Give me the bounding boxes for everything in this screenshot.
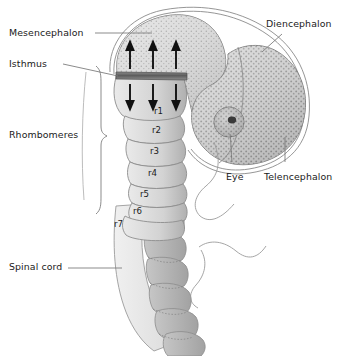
label-rhombomere-r2: r2: [152, 126, 161, 135]
label-rhombomere-r7: r7: [114, 220, 123, 229]
brain-diagram-figure: Mesencephalon Isthmus Rhombomeres Spinal…: [0, 0, 345, 356]
eye-vesicle: [214, 107, 244, 137]
label-telencephalon: Telencephalon: [264, 172, 332, 181]
label-rhombomere-r1: r1: [154, 107, 163, 116]
label-rhombomere-r5: r5: [140, 190, 149, 199]
label-mesencephalon: Mesencephalon: [9, 28, 84, 37]
label-rhombomeres: Rhombomeres: [9, 130, 78, 139]
label-isthmus: Isthmus: [9, 59, 47, 68]
label-rhombomere-r3: r3: [150, 147, 159, 156]
label-rhombomere-r6: r6: [133, 207, 142, 216]
rhombomeres-bracket: [96, 66, 107, 214]
isthmus-band: [116, 72, 187, 80]
label-spinal-cord: Spinal cord: [9, 262, 62, 271]
label-diencephalon: Diencephalon: [266, 19, 332, 28]
eye-pupil: [228, 117, 236, 124]
label-rhombomere-r4: r4: [148, 169, 157, 178]
label-eye: Eye: [226, 172, 244, 181]
embryo-body-contours: [191, 142, 266, 308]
